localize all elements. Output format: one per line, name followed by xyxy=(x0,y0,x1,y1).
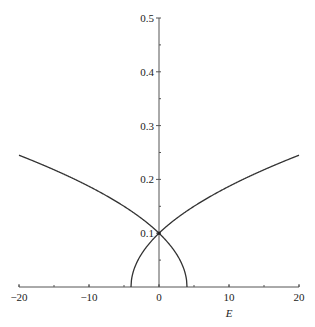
x-tick-label: −20 xyxy=(10,291,28,303)
y-tick-label: 0.1 xyxy=(140,227,154,239)
x-tick-label: 0 xyxy=(156,291,162,303)
x-axis-label: E xyxy=(225,307,233,319)
chart: −20−1001020 0.10.20.30.40.5 E xyxy=(0,0,315,327)
y-tick-label: 0.4 xyxy=(140,66,154,78)
x-tick-label: 20 xyxy=(294,291,306,303)
series-line-branch-1 xyxy=(19,155,187,287)
x-tick-label: −10 xyxy=(80,291,98,303)
y-tick-label: 0.5 xyxy=(140,12,154,24)
x-tick-label: 10 xyxy=(224,291,236,303)
series-line-branch-2 xyxy=(131,155,299,287)
crossing-point-marker xyxy=(158,232,161,235)
x-axis: −20−1001020 xyxy=(10,284,305,303)
y-axis: 0.10.20.30.40.5 xyxy=(140,12,161,287)
y-tick-label: 0.2 xyxy=(140,173,154,185)
y-tick-label: 0.3 xyxy=(140,120,154,132)
